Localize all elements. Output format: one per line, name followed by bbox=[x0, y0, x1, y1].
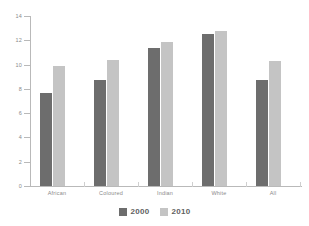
bar-chart: 02468101214 AfricanColouredIndianWhiteAl… bbox=[0, 0, 309, 226]
category-separator bbox=[300, 182, 301, 187]
plot-area bbox=[30, 16, 300, 186]
y-axis-tick-label: 10 bbox=[2, 62, 22, 68]
bar-2000-coloured bbox=[94, 80, 106, 186]
legend-entry-2010: 2010 bbox=[160, 207, 191, 216]
bar-2010-all bbox=[269, 61, 281, 186]
category-label-african: African bbox=[30, 190, 84, 196]
bar-group bbox=[246, 16, 300, 186]
x-axis-line bbox=[30, 186, 302, 187]
y-axis-tick-labels: 02468101214 bbox=[0, 0, 22, 226]
bar-2000-white bbox=[202, 34, 214, 186]
bar-group bbox=[192, 16, 246, 186]
legend-swatch-icon bbox=[119, 208, 127, 216]
legend-label: 2000 bbox=[131, 207, 150, 216]
category-label-all: All bbox=[246, 190, 300, 196]
y-axis-tick-label: 2 bbox=[2, 159, 22, 165]
y-axis-tick-label: 0 bbox=[2, 183, 22, 189]
bar-group bbox=[30, 16, 84, 186]
category-label-coloured: Coloured bbox=[84, 190, 138, 196]
y-axis-tick-label: 12 bbox=[2, 37, 22, 43]
legend-entry-2000: 2000 bbox=[119, 207, 150, 216]
legend-label: 2010 bbox=[172, 207, 191, 216]
bar-2000-african bbox=[40, 93, 52, 187]
bar-2000-indian bbox=[148, 48, 160, 186]
bar-group bbox=[138, 16, 192, 186]
y-axis-tick-label: 14 bbox=[2, 13, 22, 19]
legend-swatch-icon bbox=[160, 208, 168, 216]
category-label-indian: Indian bbox=[138, 190, 192, 196]
y-axis-tick-label: 6 bbox=[2, 110, 22, 116]
chart-legend: 20002010 bbox=[0, 207, 309, 216]
category-label-white: White bbox=[192, 190, 246, 196]
bar-2010-indian bbox=[161, 42, 173, 187]
bar-2000-all bbox=[256, 80, 268, 186]
y-axis-tick-label: 8 bbox=[2, 86, 22, 92]
bar-2010-white bbox=[215, 31, 227, 186]
y-axis-tick-label: 4 bbox=[2, 134, 22, 140]
bar-2010-african bbox=[53, 66, 65, 186]
y-axis-tick bbox=[24, 186, 30, 187]
bar-group bbox=[84, 16, 138, 186]
bar-2010-coloured bbox=[107, 60, 119, 186]
